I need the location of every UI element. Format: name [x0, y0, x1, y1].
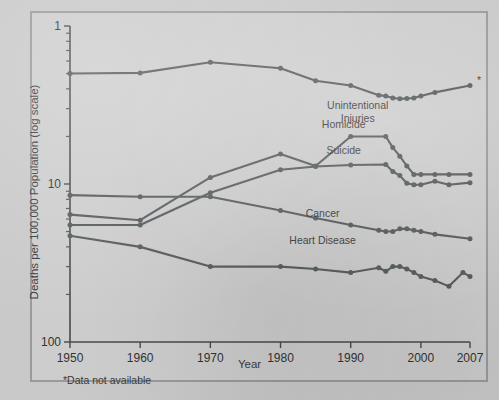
series-cancer [68, 193, 473, 242]
series-label: Homicide [322, 118, 366, 130]
y-axis-label: Deaths per 100,000 Population (log scale… [28, 62, 40, 322]
y-tick-label: 100 [41, 335, 61, 349]
footnote: *Data not available [63, 374, 151, 386]
y-tick-label: 1 [54, 19, 61, 33]
series-label-layer: UnintentionalInjuriesHomicideSuicideCanc… [289, 74, 481, 246]
series-heart-disease [68, 233, 473, 289]
axes-layer [64, 26, 470, 348]
series-label: Heart Disease [289, 234, 356, 246]
series-layer [68, 60, 473, 289]
line-chart: UnintentionalInjuriesHomicideSuicideCanc… [0, 0, 499, 400]
figure-page: UnintentionalInjuriesHomicideSuicideCanc… [0, 0, 499, 400]
y-tick-label: 10 [48, 177, 62, 191]
x-axis-label: Year [0, 358, 499, 370]
series-label: Cancer [306, 207, 340, 219]
data-not-available-asterisk: * [477, 74, 481, 86]
plot-area: UnintentionalInjuriesHomicideSuicideCanc… [0, 0, 499, 400]
series-label: Unintentional [327, 99, 388, 111]
series-label: Suicide [326, 144, 361, 156]
series-unintentional-injuries [68, 60, 473, 102]
tick-label-layer: 1001011950196019701980199020002007 [41, 19, 484, 365]
